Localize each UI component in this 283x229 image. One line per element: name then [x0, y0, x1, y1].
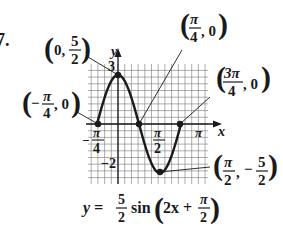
svg-text:, 0: , 0 — [54, 96, 69, 112]
svg-text:5: 5 — [71, 33, 79, 49]
y-tick-neg2: −2 — [101, 156, 116, 171]
svg-text:(: ( — [44, 31, 54, 65]
svg-text:5: 5 — [118, 192, 125, 207]
svg-text:π: π — [200, 192, 208, 207]
point-zero-right — [177, 121, 183, 127]
svg-text:−: − — [82, 133, 89, 148]
svg-text:π: π — [190, 11, 199, 27]
point-min — [157, 169, 163, 175]
svg-text:π: π — [154, 125, 162, 140]
x-tick-pi-over-2: π 2 — [153, 125, 165, 156]
svg-text:π: π — [224, 154, 233, 170]
svg-text:): ) — [210, 191, 220, 225]
svg-text:2: 2 — [118, 210, 125, 225]
svg-text:2x +: 2x + — [163, 199, 192, 216]
sinusoid-figure: 7. y x 3 −2 π π 2 − π 4 — [0, 0, 283, 229]
svg-text:π: π — [93, 125, 101, 140]
svg-text:, 0: , 0 — [201, 23, 216, 39]
svg-text:): ) — [261, 60, 271, 94]
svg-text:3π: 3π — [223, 65, 241, 81]
svg-text:2: 2 — [154, 141, 161, 156]
annotation-zero-left: ( − π 4 , 0 ) — [22, 85, 81, 121]
svg-text:,: , — [236, 164, 240, 180]
svg-text:y =: y = — [81, 199, 103, 217]
y-tick-3: 3 — [108, 59, 115, 74]
svg-text:4: 4 — [93, 141, 100, 156]
svg-text:2: 2 — [200, 210, 207, 225]
svg-text:(: ( — [213, 148, 223, 182]
svg-text:5: 5 — [258, 154, 266, 170]
equation: y = 5 2 sin ( 2x + π 2 ) — [81, 191, 220, 225]
svg-text:(: ( — [180, 7, 190, 41]
svg-text:sin: sin — [131, 199, 151, 216]
svg-text:): ) — [81, 31, 91, 65]
svg-text:2: 2 — [258, 172, 266, 188]
svg-text:π: π — [43, 88, 52, 104]
x-tick-pi: π — [195, 125, 203, 140]
svg-text:4: 4 — [190, 29, 198, 45]
x-axis-label: x — [217, 124, 225, 139]
svg-text:2: 2 — [224, 172, 232, 188]
svg-text:4: 4 — [228, 83, 236, 99]
point-zero-mid — [136, 121, 142, 127]
problem-number: 7. — [0, 30, 10, 50]
svg-text:2: 2 — [71, 51, 79, 67]
svg-text:−: − — [31, 95, 40, 111]
svg-text:−: − — [244, 161, 253, 177]
y-axis-label: y — [109, 44, 118, 59]
annotation-zero-right: ( 3π 4 , 0 ) — [216, 60, 271, 99]
svg-text:0,: 0, — [54, 42, 66, 58]
annotation-max: ( 0, 5 2 ) — [44, 31, 91, 67]
x-tick-neg-pi-over-4: − π 4 — [82, 125, 104, 156]
point-max — [115, 72, 121, 78]
annotation-zero-mid: ( π 4 , 0 ) — [180, 7, 228, 45]
svg-text:4: 4 — [43, 105, 51, 121]
svg-text:): ) — [218, 7, 228, 41]
svg-text:): ) — [268, 148, 278, 182]
svg-text:, 0: , 0 — [243, 76, 258, 92]
svg-text:): ) — [71, 85, 81, 119]
annotation-min: ( π 2 , − 5 2 ) — [213, 148, 278, 188]
